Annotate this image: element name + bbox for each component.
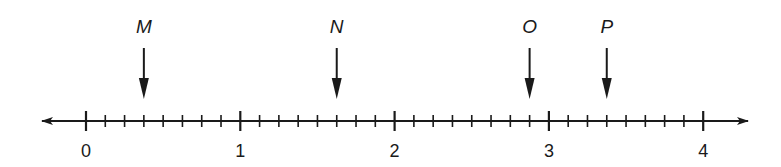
tick-label-2: 2 (390, 141, 400, 161)
arrowhead-icon (332, 78, 342, 99)
point-marker-m: M (136, 16, 152, 99)
tick-label-4: 4 (698, 141, 708, 161)
arrowhead-icon (139, 78, 149, 99)
tick-label-0: 0 (81, 141, 91, 161)
tick-label-1: 1 (235, 141, 245, 161)
arrowhead-icon (525, 78, 535, 99)
tick-labels: 01234 (81, 141, 708, 161)
arrowhead-icon (602, 78, 612, 99)
point-marker-n: N (330, 16, 344, 99)
number-line-svg: 01234 MNOP (0, 0, 781, 167)
point-label: O (522, 16, 537, 37)
point-markers: MNOP (136, 16, 613, 99)
point-label: M (136, 16, 152, 37)
point-marker-o: O (522, 16, 537, 99)
tick-label-3: 3 (544, 141, 554, 161)
number-line-diagram: 01234 MNOP (0, 0, 781, 167)
point-marker-p: P (600, 16, 613, 99)
point-label: N (330, 16, 344, 37)
point-label: P (600, 16, 613, 37)
